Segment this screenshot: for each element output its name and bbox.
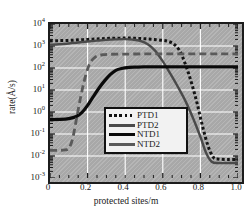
dashed-line-sample (109, 140, 135, 149)
y-tick-label: 100 (33, 105, 45, 116)
x-tick-label: 1.0 (230, 183, 241, 192)
y-tick-label: 103 (33, 39, 45, 50)
x-tick-label: 0.6 (155, 183, 166, 192)
y-tick-label: 10-3 (31, 171, 45, 182)
x-axis-title: protected sites/m (0, 196, 252, 206)
y-axis-title: rate(Å/s) (7, 62, 17, 132)
legend-label: NTD2 (137, 140, 160, 149)
legend-label: NTD1 (137, 130, 160, 139)
thin-solid-line-sample (109, 121, 135, 130)
legend-item-ntd2[interactable]: NTD2 (109, 140, 183, 150)
thick-solid-line-sample (109, 130, 135, 139)
y-tick-label: 10-2 (31, 149, 45, 160)
y-tick-label: 101 (33, 83, 45, 94)
data-curves-svg (50, 24, 238, 178)
legend-label: PTD1 (137, 111, 159, 120)
x-tick-label: 0.2 (80, 183, 91, 192)
y-tick-label: 102 (33, 61, 45, 72)
y-tick-label: 10-1 (31, 127, 45, 138)
x-tick-label: 0.4 (118, 183, 129, 192)
dotted-line-sample (109, 111, 135, 120)
figure: 10-310-210-1100101102103104 rate(Å/s) 00… (0, 0, 252, 218)
x-tick-label: 0 (46, 183, 51, 192)
y-tick-label: 104 (33, 17, 45, 28)
x-tick-label: 0.8 (193, 183, 204, 192)
plot-area (48, 22, 244, 184)
legend[interactable]: PTD1 PTD2 NTD1 NTD2 (104, 107, 188, 154)
curves-container (50, 24, 242, 182)
